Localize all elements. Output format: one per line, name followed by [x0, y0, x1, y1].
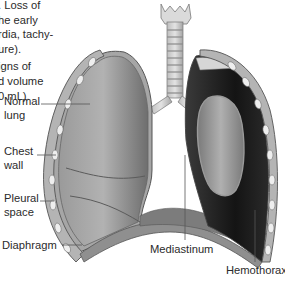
label-mediastinum: Mediastinum — [150, 243, 213, 257]
label-line: Pleural — [4, 192, 39, 206]
label-chest-wall: Chest wall — [4, 145, 33, 172]
label-pleural-space: Pleural space — [4, 192, 39, 219]
label-line: Normal — [4, 95, 40, 109]
label-line: lung — [4, 109, 40, 123]
label-line: Chest — [4, 145, 33, 159]
normal-lung — [52, 51, 152, 252]
label-normal-lung: Normal lung — [4, 95, 40, 122]
label-line: wall — [4, 159, 33, 173]
label-hemothorax: Hemothorax — [226, 264, 285, 278]
label-line: space — [4, 206, 39, 220]
label-diaphragm: Diaphragm — [2, 239, 57, 253]
